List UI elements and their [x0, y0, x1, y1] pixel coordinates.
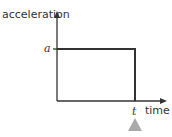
x-axis-label: time [145, 105, 170, 116]
x-value-label: t [132, 106, 136, 117]
triangle-marker-icon [128, 118, 142, 131]
y-axis-label: acceleration [2, 9, 70, 20]
y-value-label: a [44, 43, 51, 54]
acceleration-line [57, 49, 135, 101]
